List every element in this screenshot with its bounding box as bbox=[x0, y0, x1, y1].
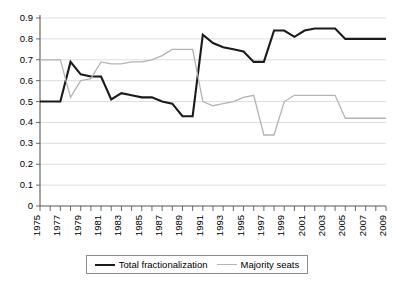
x-axis-tick-label: 1977 bbox=[51, 215, 62, 236]
x-axis-tick-label: 1979 bbox=[72, 215, 83, 236]
gray-line-swatch-icon bbox=[217, 264, 237, 265]
black-line-swatch-icon bbox=[95, 264, 115, 266]
x-axis-tick-label: 1993 bbox=[214, 215, 225, 236]
y-axis-tick-label: 0.5 bbox=[20, 96, 33, 107]
legend-label-total-fractionalization: Total fractionalization bbox=[119, 259, 208, 270]
x-axis-tick-label: 1975 bbox=[31, 215, 42, 236]
y-axis-tick-label: 0.3 bbox=[20, 137, 33, 148]
legend-entry-total-fractionalization: Total fractionalization bbox=[95, 259, 208, 270]
y-axis-tick-label: 0.9 bbox=[20, 12, 33, 23]
chart-plot-area: 00.10.20.30.40.50.60.70.80.9197519771979… bbox=[0, 0, 394, 283]
y-axis-tick-label: 0.2 bbox=[20, 158, 33, 169]
y-axis-tick-label: 0.1 bbox=[20, 179, 33, 190]
chart-legend: Total fractionalization Majority seats bbox=[86, 255, 308, 274]
x-axis-tick-label: 1997 bbox=[255, 215, 266, 236]
x-axis-tick-label: 2005 bbox=[336, 215, 347, 236]
y-axis-tick-label: 0.7 bbox=[20, 54, 33, 65]
x-axis-tick-label: 2001 bbox=[296, 215, 307, 236]
x-axis-tick-label: 1991 bbox=[194, 215, 205, 236]
x-axis-tick-label: 2007 bbox=[357, 215, 368, 236]
series-line-total-fractionalization bbox=[40, 28, 386, 116]
y-axis-tick-label: 0.8 bbox=[20, 33, 33, 44]
line-chart: 00.10.20.30.40.50.60.70.80.9197519771979… bbox=[0, 0, 394, 283]
y-axis-tick-label: 0.4 bbox=[20, 116, 33, 127]
x-axis-tick-label: 1985 bbox=[133, 215, 144, 236]
x-axis-tick-label: 1989 bbox=[173, 215, 184, 236]
x-axis-tick-label: 1999 bbox=[275, 215, 286, 236]
x-axis-tick-label: 1995 bbox=[235, 215, 246, 236]
x-axis-tick-label: 2003 bbox=[316, 215, 327, 236]
legend-label-majority-seats: Majority seats bbox=[241, 259, 300, 270]
y-axis-tick-label: 0 bbox=[28, 200, 33, 211]
legend-entry-majority-seats: Majority seats bbox=[217, 259, 300, 270]
x-axis-tick-label: 1987 bbox=[153, 215, 164, 236]
y-axis-tick-label: 0.6 bbox=[20, 75, 33, 86]
x-axis-tick-label: 1981 bbox=[92, 215, 103, 236]
x-axis-tick-label: 1983 bbox=[112, 215, 123, 236]
x-axis-tick-label: 2009 bbox=[377, 215, 388, 236]
